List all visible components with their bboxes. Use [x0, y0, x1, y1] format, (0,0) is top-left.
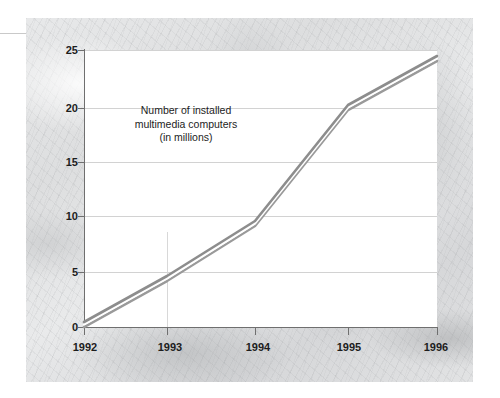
- annotation-line-3: (in millions): [124, 131, 248, 145]
- series-core-highlight: [84, 59, 437, 325]
- annotation-line-1: Number of installed: [124, 104, 248, 118]
- series-edge-lower: [84, 61, 437, 327]
- series-edge-upper: [84, 56, 437, 322]
- chart-annotation: Number of installed multimedia computers…: [124, 104, 248, 145]
- data-series-ribbon: [0, 0, 500, 398]
- chart-figure: 25 20 15 10 5 0 1992 1993 1994 1995 1996…: [0, 0, 500, 398]
- annotation-line-2: multimedia computers: [124, 118, 248, 132]
- series-line-group: [84, 56, 437, 327]
